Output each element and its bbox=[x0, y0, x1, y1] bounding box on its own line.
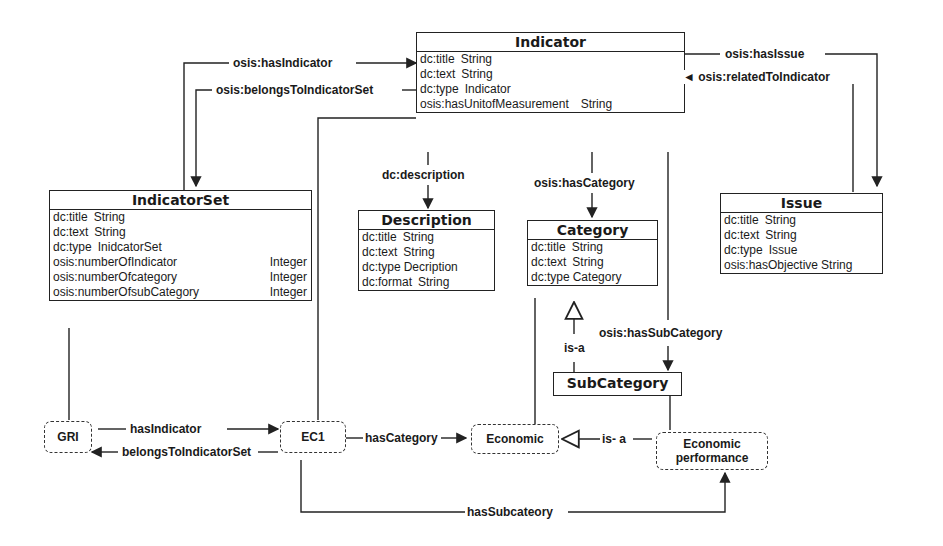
class-issue: Issue dc:titleString dc:textString dc:ty… bbox=[720, 193, 883, 274]
label-description: dc:description bbox=[380, 168, 467, 182]
attr-row: dc:titleString bbox=[359, 230, 494, 245]
label-inst-belongs-to-indicator-set: belongsToIndicatorSet bbox=[120, 445, 253, 459]
label-inst-has-indicator: hasIndicator bbox=[128, 422, 203, 436]
class-title: Category bbox=[528, 221, 657, 240]
attr-row: osis:numberOfsubCategoryInteger bbox=[50, 285, 311, 300]
attr-row: dc:formatString bbox=[359, 275, 494, 290]
attr-row: dc:typeCategory bbox=[528, 270, 657, 285]
class-category: Category dc:titleString dc:textString dc… bbox=[527, 220, 658, 286]
class-indicator-set: IndicatorSet dc:titleString dc:textStrin… bbox=[49, 190, 312, 301]
instance-ec1: EC1 bbox=[280, 421, 346, 453]
attr-row: osis:hasUnitofMeasurementString bbox=[417, 97, 684, 112]
attr-row: dc:titleString bbox=[50, 210, 311, 225]
attr-row: dc:typeInidcatorSet bbox=[50, 240, 311, 255]
label-inst-has-category: hasCategory bbox=[363, 431, 440, 445]
class-subcategory: SubCategory bbox=[553, 372, 682, 396]
label-is-a: is-a bbox=[562, 341, 587, 355]
label-has-indicator: osis:hasIndicator bbox=[231, 56, 334, 70]
attr-row: osis:hasObjectiveString bbox=[721, 258, 882, 273]
attr-row: osis:numberOfIndicatorInteger bbox=[50, 255, 311, 270]
class-title: Description bbox=[359, 211, 494, 230]
attr-row: dc:titleString bbox=[417, 52, 684, 67]
attr-row: dc:textString bbox=[528, 255, 657, 270]
attr-row: dc:titleString bbox=[528, 240, 657, 255]
label-related-to-indicator: ◄ osis:relatedToIndicator bbox=[681, 70, 832, 84]
class-indicator: Indicator dc:titleString dc:textString d… bbox=[416, 32, 685, 113]
label-inst-is-a: is- a bbox=[600, 432, 628, 446]
label-has-issue: osis:hasIssue bbox=[723, 47, 806, 61]
attr-row: dc:textString bbox=[359, 245, 494, 260]
label-belongs-to-indicator-set: osis:belongsToIndicatorSet bbox=[214, 83, 375, 97]
attr-row: dc:textString bbox=[417, 67, 684, 82]
attr-row: dc:textString bbox=[50, 225, 311, 240]
label-has-category: osis:hasCategory bbox=[532, 176, 637, 190]
class-title: Indicator bbox=[417, 33, 684, 52]
instance-gri: GRI bbox=[44, 421, 92, 453]
attr-row: dc:typeIndicator bbox=[417, 82, 684, 97]
class-title: SubCategory bbox=[554, 373, 681, 394]
attr-row: osis:numberOfcategoryInteger bbox=[50, 270, 311, 285]
attr-row: dc:typeIssue bbox=[721, 243, 882, 258]
class-title: Issue bbox=[721, 194, 882, 213]
label-has-subcategory: osis:hasSubCategory bbox=[597, 326, 724, 340]
class-description: Description dc:titleString dc:textString… bbox=[358, 210, 495, 291]
instance-economic-performance: Economic performance bbox=[656, 432, 768, 470]
attr-row: dc:titleString bbox=[721, 213, 882, 228]
class-title: IndicatorSet bbox=[50, 191, 311, 210]
attr-row: dc:textString bbox=[721, 228, 882, 243]
attr-row: dc:typeDecription bbox=[359, 260, 494, 275]
label-inst-has-subcategory: hasSubcateory bbox=[465, 505, 555, 519]
instance-economic: Economic bbox=[471, 424, 559, 454]
